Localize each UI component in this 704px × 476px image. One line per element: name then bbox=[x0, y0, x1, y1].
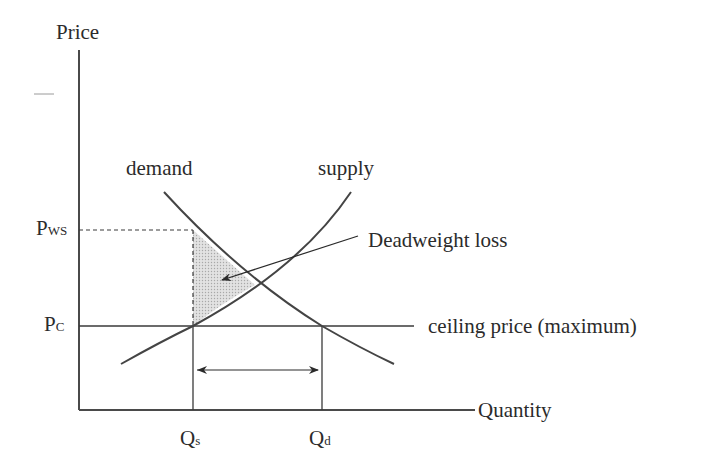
pc-main: P bbox=[44, 312, 56, 336]
qs-label: Qs bbox=[180, 428, 200, 449]
ceiling-price-label: ceiling price (maximum) bbox=[428, 316, 637, 337]
supply-label: supply bbox=[318, 158, 374, 179]
pc-label: PC bbox=[44, 314, 64, 335]
supply-demand-diagram bbox=[0, 0, 704, 476]
pws-sub: WS bbox=[48, 223, 68, 238]
y-axis-label: Price bbox=[56, 22, 99, 43]
deadweight-loss-arrow bbox=[222, 236, 358, 280]
deadweight-loss-label: Deadweight loss bbox=[368, 230, 507, 251]
pws-main: P bbox=[36, 216, 48, 240]
qs-sub: s bbox=[195, 433, 200, 448]
demand-label: demand bbox=[126, 158, 192, 179]
pws-label: PWS bbox=[36, 218, 67, 239]
qd-label: Qd bbox=[309, 428, 331, 449]
x-axis-label: Quantity bbox=[478, 400, 552, 421]
qd-sub: d bbox=[324, 433, 331, 448]
pc-sub: C bbox=[56, 319, 65, 334]
deadweight-loss-area bbox=[193, 230, 255, 326]
qd-main: Q bbox=[309, 426, 324, 450]
qs-main: Q bbox=[180, 426, 195, 450]
